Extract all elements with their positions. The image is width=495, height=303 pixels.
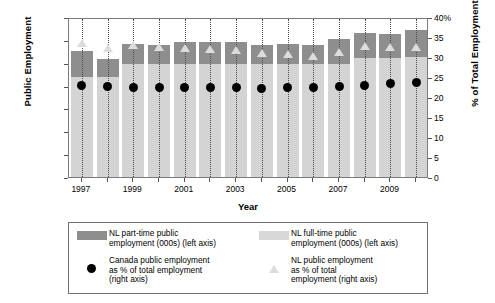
legend-key-nl-triangle [257,255,291,277]
marker-nl-percent [257,49,267,57]
y-axis-left-title: Public Employment [22,0,33,132]
plot-frame [68,18,428,178]
legend-item-canada-percent: Canada public employment as % of total e… [75,255,249,285]
x-axis-tick-label: 2007 [318,184,358,194]
legend-item-nl-full-time: NL full-time public employment (000s) (l… [257,228,431,250]
legend-column-left: NL part-time public employment (000s) (l… [75,228,249,290]
marker-canada-percent [309,83,318,92]
marker-nl-percent [154,43,164,51]
marker-nl-percent [385,43,395,51]
marker-nl-percent [103,44,113,52]
y-axis-right-tick-mark [428,138,432,139]
marker-nl-percent [128,41,138,49]
grid-line-vertical [236,19,237,177]
marker-canada-percent [257,84,266,93]
x-axis-tick-mark [338,178,339,182]
grid-line-vertical [210,19,211,177]
x-axis-tick-mark [81,178,82,182]
dark-gray-swatch-icon [77,231,107,240]
marker-nl-percent [283,50,293,58]
marker-canada-percent [412,78,421,87]
y-axis-right-tick-mark [428,78,432,79]
legend-label-line: employment (000s) (left axis) [109,239,216,249]
marker-nl-percent [411,43,421,51]
x-axis-tick-mark [132,178,133,182]
x-axis-tick-mark [415,178,416,182]
x-axis-tick-mark [209,178,210,182]
legend-label-part-time: NL part-time public employment (000s) (l… [109,228,216,248]
x-axis-tick-label: 2001 [164,184,204,194]
grid-line-vertical [185,19,186,177]
y-axis-right-tick-mark [428,178,432,179]
legend-label-full-time: NL full-time public employment (000s) (l… [291,228,398,248]
chart-legend: NL part-time public employment (000s) (l… [68,222,428,294]
x-axis-tick-mark [107,178,108,182]
x-axis-tick-mark [312,178,313,182]
legend-key-part-time-swatch [75,228,109,250]
y-axis-left-tick-mark [64,178,68,179]
x-axis-tick-label: 2005 [267,184,307,194]
x-axis-tick-mark [184,178,185,182]
plot-area [69,19,427,177]
x-axis-tick-mark [287,178,288,182]
legend-label-canada-percent: Canada public employment as % of total e… [109,255,210,285]
legend-item-nl-percent: NL public employment as % of total emplo… [257,255,431,285]
marker-nl-percent [231,46,241,54]
y-axis-right-tick-mark [428,58,432,59]
x-axis-tick-mark [389,178,390,182]
marker-nl-percent [205,45,215,53]
x-axis-tick-label: 1997 [61,184,101,194]
x-axis-tick-label: 2009 [369,184,409,194]
marker-canada-percent [129,83,138,92]
marker-canada-percent [232,83,241,92]
y-axis-right-tick-label: 10 [434,134,474,143]
legend-column-right: NL full-time public employment (000s) (l… [257,228,431,290]
legend-label-nl-percent: NL public employment as % of total emplo… [291,255,377,285]
y-axis-right-tick-label: 20 [434,94,474,103]
marker-canada-percent [335,82,344,91]
grid-line-vertical [108,19,109,177]
x-axis-tick-label: 1999 [112,184,152,194]
marker-nl-percent [308,52,318,60]
x-axis-title: Year [68,201,428,212]
y-axis-right-tick-label: 30 [434,54,474,63]
legend-label-line: (right axis) [109,275,210,285]
y-axis-right-tick-label: 40% [434,14,474,23]
y-axis-right-tick-label: 0 [434,174,474,183]
legend-label-line: employment (000s) (left axis) [291,239,398,249]
legend-item-nl-part-time: NL part-time public employment (000s) (l… [75,228,249,250]
y-axis-right-tick-label: 5 [434,154,474,163]
y-axis-right-tick-mark [428,98,432,99]
x-axis-tick-mark [158,178,159,182]
marker-nl-percent [360,42,370,50]
light-gray-triangle-marker-icon [269,265,279,273]
y-axis-right-tick-label: 15 [434,114,474,123]
y-axis-right-tick-mark [428,18,432,19]
marker-nl-percent [334,48,344,56]
y-axis-right-tick-mark [428,38,432,39]
marker-nl-percent [77,39,87,47]
y-axis-right-tick-label: 25 [434,74,474,83]
x-axis-tick-mark [364,178,365,182]
marker-canada-percent [155,83,164,92]
legend-label-line: employment (right axis) [291,275,377,285]
light-gray-swatch-icon [259,231,289,240]
grid-line-vertical [262,19,263,177]
x-axis-tick-label: 2003 [215,184,255,194]
grid-line-vertical [339,19,340,177]
y-axis-right-tick-label: 35 [434,34,474,43]
x-axis-tick-mark [261,178,262,182]
grid-line-vertical [288,19,289,177]
legend-key-full-time-swatch [257,228,291,250]
x-axis-tick-mark [235,178,236,182]
marker-nl-percent [180,44,190,52]
marker-canada-percent [283,83,292,92]
black-circle-marker-icon [87,264,96,273]
legend-key-canada-dot [75,255,109,277]
marker-canada-percent [360,81,369,90]
y-axis-right-tick-mark [428,158,432,159]
grid-line-vertical [313,19,314,177]
chart-figure: Public Employment % of Total Employment … [0,0,495,303]
y-axis-right-tick-mark [428,118,432,119]
